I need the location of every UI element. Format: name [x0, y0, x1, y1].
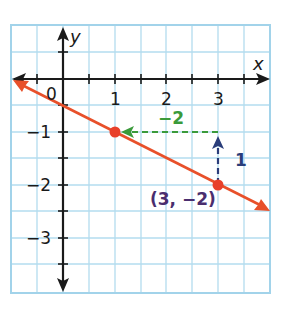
origin-label: 0	[46, 86, 57, 103]
y-tick-label-neg1: −1	[26, 124, 51, 141]
x-tick-label-2: 2	[161, 91, 172, 108]
line-arrow-right-icon	[254, 199, 270, 211]
y-axis	[57, 27, 69, 292]
x-tick-label-1: 1	[110, 91, 121, 108]
point-label: (3, −2)	[150, 191, 216, 208]
y-tick-label-neg2: −2	[26, 177, 51, 194]
y-tick-label-neg3: −3	[26, 230, 51, 247]
grid	[11, 25, 270, 293]
rise-label: 1	[235, 152, 247, 169]
run-label: −2	[158, 110, 184, 127]
coordinate-plane: y x 0 1 2 3 −1 −2 −3 −2 1 (3, −2)	[0, 0, 292, 318]
y-axis-label: y	[70, 28, 81, 46]
x-axis-label: x	[253, 55, 264, 73]
point-1-neg1	[110, 127, 121, 138]
graph-canvas	[0, 0, 292, 318]
x-tick-label-3: 3	[213, 91, 224, 108]
